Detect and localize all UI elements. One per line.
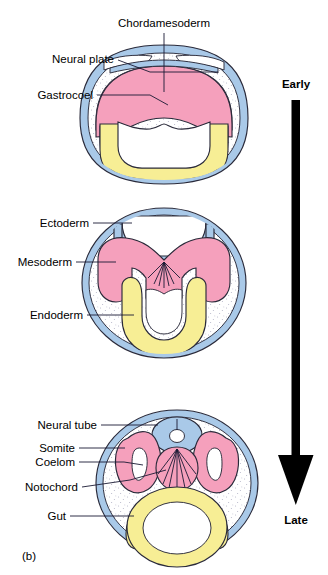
label-coelom: Coelom — [35, 456, 75, 468]
label-gastrocoel: Gastrocoel — [37, 89, 93, 101]
timeline-early-label: Early — [282, 78, 311, 90]
label-notochord: Notochord — [25, 481, 78, 493]
label-mesoderm: Mesoderm — [18, 256, 72, 268]
label-somite: Somite — [39, 442, 75, 454]
label-gut: Gut — [47, 510, 66, 522]
timeline-late-label: Late — [284, 514, 308, 526]
late-gut-lumen — [143, 502, 211, 554]
late-neural-tube-lumen — [170, 430, 185, 443]
label-neural-tube: Neural tube — [38, 419, 97, 431]
label-neural-plate: Neural plate — [52, 53, 114, 65]
timeline-arrow-shaft — [292, 100, 301, 462]
label-endoderm: Endoderm — [30, 309, 83, 321]
panel-label: (b) — [22, 550, 36, 562]
label-ectoderm: Ectoderm — [40, 217, 89, 229]
middle-archenteron-cavity — [146, 289, 182, 334]
neurulation-diagram: Early Late Chor — [0, 0, 328, 575]
label-chordamesoderm: Chordamesoderm — [118, 17, 210, 29]
early-gastrocoel-cavity — [118, 122, 210, 168]
